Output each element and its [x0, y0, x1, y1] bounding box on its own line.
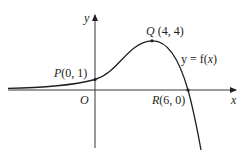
y-axis-label: y — [83, 11, 90, 25]
point-p — [93, 78, 96, 81]
point-q — [150, 39, 153, 42]
curve-label-lhs: y = f( — [181, 52, 208, 66]
origin-label: O — [80, 93, 89, 107]
curve-label: y = f(x) — [181, 52, 217, 66]
point-p-label: P(0, 1) — [53, 66, 87, 80]
curve-label-rhs: ) — [213, 52, 217, 66]
point-p-coords: (0, 1) — [61, 66, 87, 80]
point-r-coords: (6, 0) — [159, 93, 185, 107]
x-axis-label: x — [230, 93, 237, 107]
point-q-coords: (4, 4) — [158, 24, 184, 38]
point-q-name: Q — [146, 24, 155, 38]
function-graph: y x O P(0, 1) Q (4, 4) R(6, 0) y = f(x) — [0, 0, 241, 155]
point-r — [186, 88, 189, 91]
point-r-label: R(6, 0) — [151, 93, 185, 107]
point-q-label: Q (4, 4) — [146, 24, 184, 38]
